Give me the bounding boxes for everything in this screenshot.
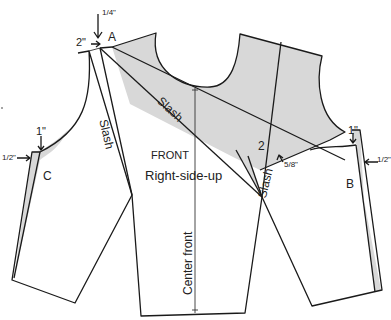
label-slash-left: Slash (96, 118, 116, 150)
point-2: 2 (258, 139, 265, 153)
measure-top-two: 2" (76, 36, 86, 48)
measure-left-half: 1/2" (2, 153, 16, 162)
measure-left-one: 1" (36, 125, 46, 137)
label-slash-right: Slash (255, 167, 276, 200)
measure-five-eighths: 5/8" (284, 160, 298, 169)
label-slash-middle: Slash (154, 94, 186, 125)
point-b: B (346, 177, 354, 191)
measure-top-quarter: 1/4" (102, 8, 116, 17)
label-right-side-up: Right-side-up (145, 168, 222, 183)
label-center-front: Center front (181, 232, 195, 295)
label-front: FRONT (151, 149, 189, 161)
measure-right-one: 1" (348, 124, 358, 136)
point-a: A (108, 30, 116, 44)
measure-right-half: 1/2" (377, 155, 391, 164)
point-c: C (43, 169, 52, 183)
